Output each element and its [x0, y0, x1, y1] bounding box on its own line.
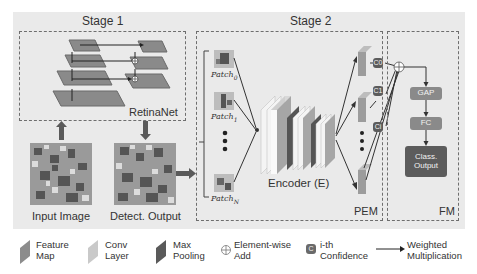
feature-map-legend-icon: [20, 240, 32, 264]
retinanet-pyramid-icon: [25, 33, 185, 113]
input-image-thumbnail: [30, 143, 92, 205]
output-to-stage2-arrow: [176, 168, 198, 180]
legend-confidence: i-thConfidence: [320, 240, 368, 262]
detect-output-thumbnail: [114, 143, 176, 205]
retinanet-label: RetinaNet: [129, 106, 178, 118]
confidence-ci-box: Ci: [373, 122, 383, 132]
legend-conv-layer: ConvLayer: [105, 240, 129, 262]
patch-ellipsis-icon: [222, 130, 228, 152]
stage2-title: Stage 2: [290, 14, 331, 28]
legend-element-wise-add: Element-wiseAdd: [234, 240, 291, 262]
pem-label: PEM: [354, 205, 378, 217]
input-to-retinanet-arrow: [56, 121, 68, 141]
legend-feature-map: FeatureMap: [36, 240, 69, 262]
fc-block: FC: [410, 117, 442, 130]
element-wise-add-legend-icon: [221, 245, 231, 255]
stage1-title: Stage 1: [82, 14, 123, 28]
legend-max-pooling: MaxPooling: [173, 240, 205, 262]
fm-label: FM: [439, 205, 455, 217]
max-pooling-legend-icon: [156, 240, 168, 264]
legend-weighted-multiplication: WeightedMultiplication: [407, 240, 462, 262]
confidence-legend-icon: C: [306, 244, 316, 254]
confidence-c0-box: C0: [373, 58, 383, 68]
retinanet-to-output-arrow: [140, 121, 152, 141]
gap-block: GAP: [410, 87, 442, 100]
input-image-label: Input Image: [32, 210, 90, 222]
confidence-c1-box: C1: [373, 86, 383, 96]
weighted-multiplication-legend-icon: [376, 245, 406, 253]
detect-output-label: Detect. Output: [110, 210, 181, 222]
conv-layer-legend-icon: [88, 240, 100, 264]
class-output-block: Class. Output: [405, 146, 447, 177]
